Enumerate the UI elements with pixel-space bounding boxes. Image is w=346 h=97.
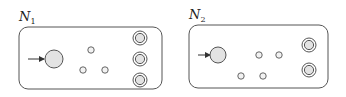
- state: [260, 73, 266, 79]
- state: [276, 52, 282, 58]
- automaton-n1-label: N1: [18, 9, 35, 26]
- state: [80, 67, 86, 73]
- start-state: [210, 47, 226, 63]
- automaton-n2: N2: [188, 7, 328, 88]
- state: [238, 73, 244, 79]
- nfa-diagram-canvas: N1 N2: [0, 0, 346, 97]
- accept-state: [302, 63, 316, 77]
- automaton-n2-label: N2: [188, 7, 205, 24]
- accept-state: [133, 52, 147, 66]
- automaton-n2-states: [238, 52, 282, 79]
- automaton-n1-states: [80, 47, 108, 73]
- automaton-n1-accept-states: [133, 31, 147, 87]
- accept-state: [133, 31, 147, 45]
- state: [88, 47, 94, 53]
- accept-state: [302, 38, 316, 52]
- accept-state: [133, 73, 147, 87]
- automaton-n2-accept-states: [302, 38, 316, 77]
- state: [102, 67, 108, 73]
- start-state: [45, 50, 63, 68]
- automaton-n1: N1: [18, 9, 162, 89]
- state: [256, 52, 262, 58]
